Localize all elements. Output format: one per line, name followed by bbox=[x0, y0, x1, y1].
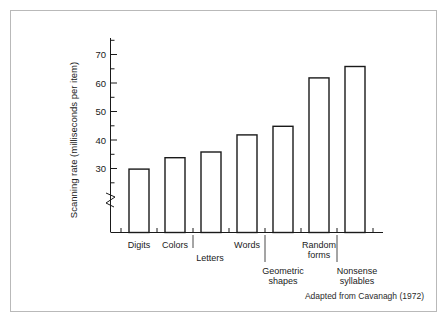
x-label-nonsense-syllables-line2: syllables bbox=[340, 276, 375, 286]
y-tick-label-40: 40 bbox=[95, 135, 106, 146]
y-axis-major-ticks bbox=[111, 55, 118, 169]
y-tick-label-60: 60 bbox=[95, 78, 106, 89]
x-label-letters: Letters bbox=[196, 253, 224, 263]
x-label-colors: Colors bbox=[162, 240, 189, 250]
x-label-nonsense-syllables-line1: Nonsense bbox=[337, 266, 378, 276]
y-tick-label-30: 30 bbox=[95, 163, 106, 174]
x-label-geometric-shapes-line2: shapes bbox=[268, 276, 298, 286]
bar-words bbox=[237, 135, 257, 233]
y-tick-label-50: 50 bbox=[95, 106, 106, 117]
bar-random-forms bbox=[309, 78, 329, 233]
bar-letters bbox=[201, 152, 221, 233]
bar-chart: Scanning rate (milliseconds per item) 70… bbox=[0, 0, 448, 324]
figure-container: Scanning rate (milliseconds per item) 70… bbox=[0, 0, 448, 324]
bar-colors bbox=[165, 158, 185, 233]
bar-nonsense-syllables bbox=[345, 67, 365, 233]
axis-break-icon bbox=[106, 193, 115, 207]
x-label-random-forms-line1: Random bbox=[302, 240, 336, 250]
y-tick-label-70: 70 bbox=[95, 49, 106, 60]
bar-digits bbox=[129, 169, 149, 232]
source-caption: Adapted from Cavanagh (1972) bbox=[305, 291, 424, 301]
x-label-words: Words bbox=[234, 240, 260, 250]
x-label-geometric-shapes-line1: Geometric bbox=[262, 266, 304, 276]
x-label-digits: Digits bbox=[128, 240, 151, 250]
bar-geometric-shapes bbox=[273, 126, 293, 232]
y-axis-title: Scanning rate (milliseconds per item) bbox=[68, 62, 79, 218]
x-label-random-forms-line2: forms bbox=[308, 250, 331, 260]
